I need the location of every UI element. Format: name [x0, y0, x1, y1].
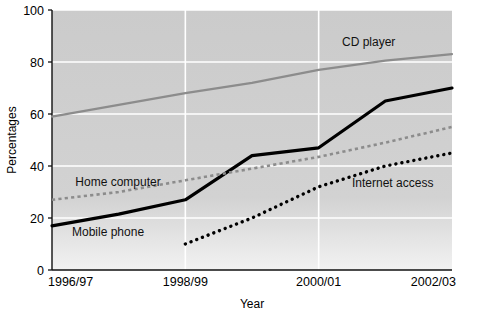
y-tick-label: 60 [30, 108, 44, 122]
y-axis-title: Percentages [5, 106, 19, 173]
series-label-cd-player: CD player [342, 35, 395, 49]
x-tick-label: 2000/01 [296, 275, 341, 289]
x-tick-label: 2002/03 [411, 275, 456, 289]
series-label-internet-access: Internet access [352, 176, 433, 190]
y-tick-label: 100 [23, 4, 44, 18]
line-chart: 0204060801001996/971998/992000/012002/03… [0, 0, 479, 314]
y-tick-label: 20 [30, 212, 44, 226]
x-tick-label: 1998/99 [163, 275, 208, 289]
y-tick-label: 40 [30, 160, 44, 174]
x-axis-title: Year [240, 297, 264, 311]
y-tick-label: 0 [37, 264, 44, 278]
chart-figure: 0204060801001996/971998/992000/012002/03… [0, 0, 479, 314]
series-label-home-computer: Home computer [75, 175, 160, 189]
y-tick-label: 80 [30, 56, 44, 70]
x-tick-label: 1996/97 [48, 275, 93, 289]
series-label-mobile-phone: Mobile phone [72, 225, 144, 239]
